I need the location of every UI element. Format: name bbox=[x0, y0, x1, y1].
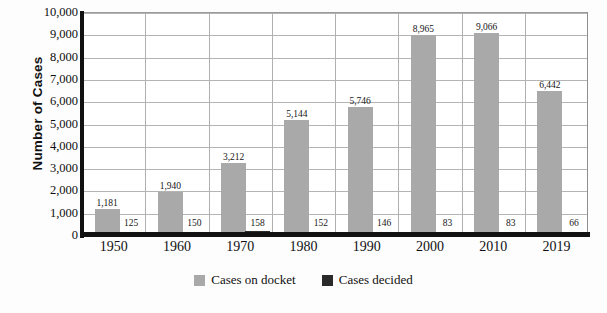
gridline-vertical bbox=[335, 13, 336, 235]
bar-value-label: 150 bbox=[187, 218, 201, 228]
y-axis-tick-label: 3,000 bbox=[18, 161, 78, 176]
x-axis-tick-label: 1990 bbox=[353, 239, 381, 255]
bar-cases-on-docket bbox=[474, 33, 499, 235]
chart-legend: Cases on docketCases decided bbox=[0, 272, 607, 288]
x-axis-tick-label: 1980 bbox=[289, 239, 317, 255]
y-axis-tick-label: 7,000 bbox=[18, 71, 78, 86]
y-axis-tick-label: 2,000 bbox=[18, 183, 78, 198]
bar-value-label: 1,181 bbox=[96, 198, 117, 208]
bar-cases-on-docket bbox=[348, 107, 373, 235]
bar-cases-on-docket bbox=[411, 35, 436, 235]
gridline-vertical bbox=[272, 13, 273, 235]
bar-value-label: 125 bbox=[124, 218, 138, 228]
x-axis-tick-label: 1960 bbox=[163, 239, 191, 255]
x-axis-tick-labels: 19501960197019801990200020102019 bbox=[82, 239, 588, 259]
gridline-vertical bbox=[145, 13, 146, 235]
legend-swatch bbox=[322, 275, 333, 286]
gridline-vertical bbox=[398, 13, 399, 235]
y-axis-tick-label: 8,000 bbox=[18, 49, 78, 64]
bar-value-label: 146 bbox=[377, 218, 391, 228]
legend-swatch bbox=[194, 275, 205, 286]
x-axis-tick-label: 2010 bbox=[479, 239, 507, 255]
legend-item: Cases decided bbox=[322, 272, 413, 288]
y-axis-tick-label: 5,000 bbox=[18, 116, 78, 131]
x-axis-tick-label: 2019 bbox=[542, 239, 570, 255]
x-axis-tick-label: 1950 bbox=[100, 239, 128, 255]
bar-cases-on-docket bbox=[221, 163, 246, 235]
bar-value-label: 66 bbox=[569, 218, 579, 228]
bar-value-label: 8,965 bbox=[413, 24, 434, 34]
bar-value-label: 5,144 bbox=[286, 109, 307, 119]
legend-label: Cases decided bbox=[339, 272, 413, 288]
y-axis-tick-labels: 01,0002,0003,0004,0005,0006,0007,0008,00… bbox=[18, 12, 78, 235]
y-axis-tick-label: 4,000 bbox=[18, 138, 78, 153]
bar-value-label: 83 bbox=[443, 218, 453, 228]
bar-value-label: 158 bbox=[251, 218, 265, 228]
bar-value-label: 3,212 bbox=[223, 152, 244, 162]
bar-value-label: 5,746 bbox=[349, 96, 370, 106]
gridline-vertical bbox=[525, 13, 526, 235]
gridline-vertical bbox=[462, 13, 463, 235]
bar-cases-on-docket bbox=[537, 91, 562, 235]
chart-figure: Number of Cases 01,0002,0003,0004,0005,0… bbox=[0, 0, 607, 313]
bar-cases-on-docket bbox=[158, 192, 183, 235]
y-axis-tick-label: 1,000 bbox=[18, 205, 78, 220]
bar-value-label: 6,442 bbox=[539, 80, 560, 90]
y-axis-tick-label: 6,000 bbox=[18, 94, 78, 109]
plot-area: 1,1811251,9401503,2121585,1441525,746146… bbox=[82, 12, 588, 235]
y-axis-line bbox=[80, 11, 84, 238]
gridline-vertical bbox=[209, 13, 210, 235]
legend-label: Cases on docket bbox=[211, 272, 295, 288]
x-axis-tick-label: 2000 bbox=[416, 239, 444, 255]
y-axis-tick-label: 9,000 bbox=[18, 27, 78, 42]
bar-value-label: 152 bbox=[314, 218, 328, 228]
bar-value-label: 1,940 bbox=[160, 181, 181, 191]
y-axis-tick-label: 10,000 bbox=[18, 5, 78, 20]
x-axis-line bbox=[80, 232, 590, 237]
x-axis-tick-label: 1970 bbox=[226, 239, 254, 255]
bar-value-label: 9,066 bbox=[476, 22, 497, 32]
y-axis-tick-label: 0 bbox=[18, 228, 78, 243]
legend-item: Cases on docket bbox=[194, 272, 295, 288]
bar-value-label: 83 bbox=[506, 218, 516, 228]
bar-cases-on-docket bbox=[284, 120, 309, 235]
